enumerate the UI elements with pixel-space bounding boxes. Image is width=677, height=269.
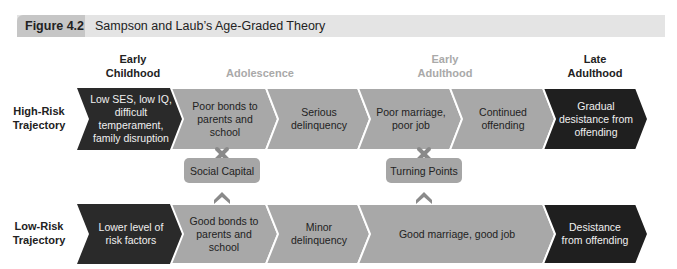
lr-step-3: Minor delinquency [280,204,358,264]
hr-step-1: Low SES, low IQ, difficult temperament, … [88,88,174,150]
turning-points-box: Turning Points [386,158,462,183]
lr-step-4: Good marriage, good job [370,204,544,264]
hr-step-3: Serious delinquency [278,88,360,150]
hr-step-6: Gradual desistance from offending [555,88,637,150]
chevron-up-icon [416,192,432,204]
hr-step-2: Poor bonds to parents and school [183,88,267,150]
hr-step-4: Poor marriage, poor job [370,88,452,150]
social-capital-box: Social Capital [184,158,260,183]
lr-step-2: Good bonds to parents and school [186,204,262,264]
hr-step-5: Continued offending [462,88,544,150]
lr-step-1: Lower level of risk factors [92,204,170,264]
chevron-up-icon [214,192,230,204]
lr-step-5: Desistance from offending [560,204,630,264]
